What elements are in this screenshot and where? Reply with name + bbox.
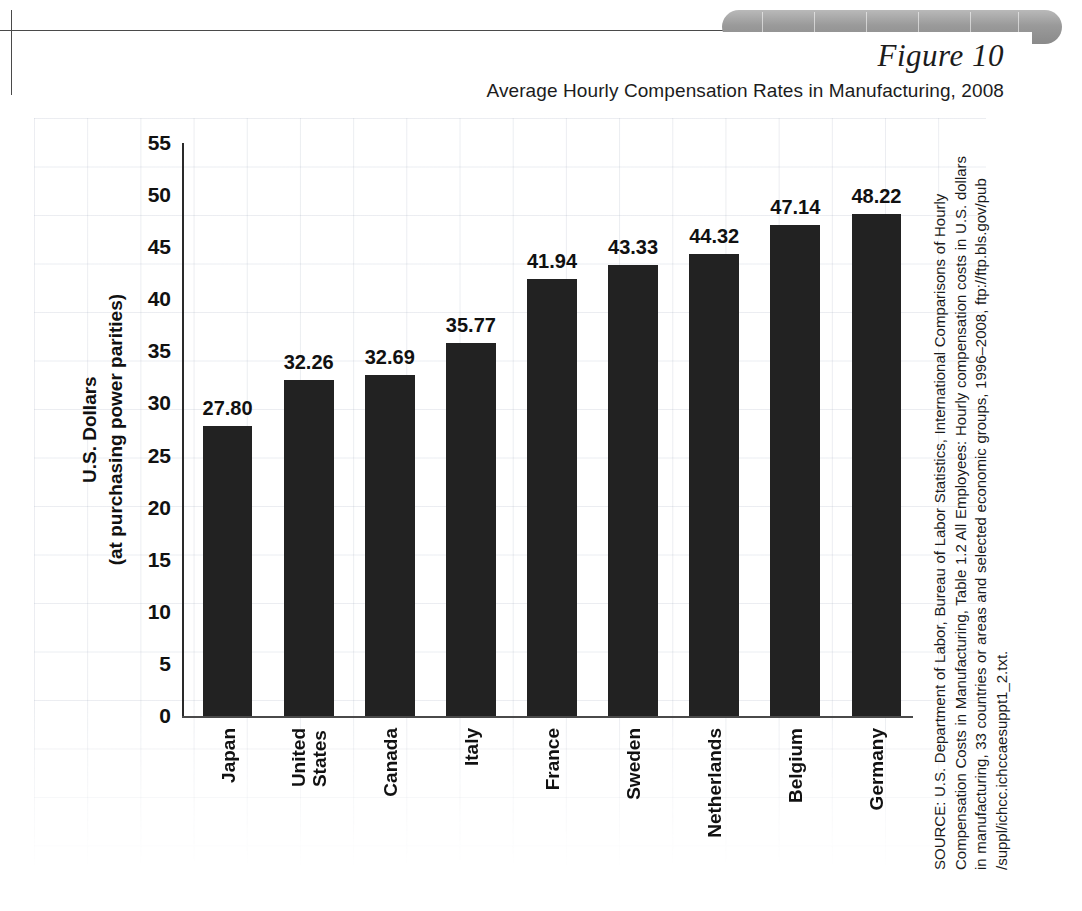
x-category-label: Italy xyxy=(462,728,483,766)
x-category-label: Netherlands xyxy=(705,728,726,838)
header-vertical-rule xyxy=(11,10,12,95)
bar-value-label: 32.26 xyxy=(284,351,334,374)
x-category-label: Germany xyxy=(867,728,888,810)
bar-group: 27.80Japan xyxy=(203,143,253,716)
bar-group: 32.26UnitedStates xyxy=(284,143,334,716)
bar[interactable] xyxy=(365,375,415,716)
y-tick-label-45: 45 xyxy=(148,235,171,259)
bar[interactable] xyxy=(852,214,902,716)
source-note-text: SOURCE: U.S. Department of Labor, Bureau… xyxy=(930,140,1013,870)
bar-group: 48.22Germany xyxy=(852,143,902,716)
x-category-label: Japan xyxy=(219,728,240,783)
x-category-label: France xyxy=(543,728,564,790)
bar[interactable] xyxy=(770,225,820,716)
y-axis-line xyxy=(182,143,184,717)
bar[interactable] xyxy=(527,279,577,716)
y-tick-label-25: 25 xyxy=(148,444,171,468)
y-tick-label-30: 30 xyxy=(148,391,171,415)
figure-label: Figure 10 xyxy=(878,38,1004,74)
bar-group: 44.32Netherlands xyxy=(689,143,739,716)
y-tick-label-10: 10 xyxy=(148,600,171,624)
bar-value-label: 47.14 xyxy=(770,196,820,219)
bar-group: 43.33Sweden xyxy=(608,143,658,716)
bar-value-label: 41.94 xyxy=(527,250,577,273)
bar-value-label: 48.22 xyxy=(851,185,901,208)
bar-value-label: 32.69 xyxy=(365,346,415,369)
x-axis-line xyxy=(182,716,913,718)
y-tick-label-50: 50 xyxy=(148,183,171,207)
bar-group: 32.69Canada xyxy=(365,143,415,716)
bar-group: 47.14Belgium xyxy=(770,143,820,716)
y-tick-label-5: 5 xyxy=(159,652,171,676)
figure-page: Figure 10 Average Hourly Compensation Ra… xyxy=(0,0,1082,911)
y-tick-label-15: 15 xyxy=(148,548,171,572)
bar-value-label: 35.77 xyxy=(446,314,496,337)
y-tick-label-40: 40 xyxy=(148,287,171,311)
chart-title: Average Hourly Compensation Rates in Man… xyxy=(487,80,1005,102)
bar[interactable] xyxy=(446,343,496,716)
y-tick-label-35: 35 xyxy=(148,339,171,363)
y-tick-label-55: 55 xyxy=(148,131,171,155)
bar-group: 41.94France xyxy=(527,143,577,716)
x-category-label: Belgium xyxy=(786,728,807,803)
bar[interactable] xyxy=(284,380,334,716)
y-axis-title-line1: U.S. Dollars xyxy=(77,294,103,565)
bar[interactable] xyxy=(689,254,739,716)
bar-group: 35.77Italy xyxy=(446,143,496,716)
y-tick-label-0: 0 xyxy=(159,704,171,728)
bar[interactable] xyxy=(203,426,253,716)
plot-area: 5550454035302520151050 27.80Japan32.26Un… xyxy=(183,143,913,717)
x-category-label: Sweden xyxy=(624,728,645,800)
y-axis-title-line2: (at purchasing power parities) xyxy=(103,294,129,565)
bar-value-label: 43.33 xyxy=(608,236,658,259)
bar[interactable] xyxy=(608,265,658,716)
y-axis-title: U.S. Dollars (at purchasing power pariti… xyxy=(72,143,134,717)
x-category-label: Canada xyxy=(381,728,402,797)
bar-value-label: 44.32 xyxy=(689,225,739,248)
bar-value-label: 27.80 xyxy=(203,397,253,420)
y-tick-label-20: 20 xyxy=(148,496,171,520)
x-category-label: UnitedStates xyxy=(289,728,330,787)
